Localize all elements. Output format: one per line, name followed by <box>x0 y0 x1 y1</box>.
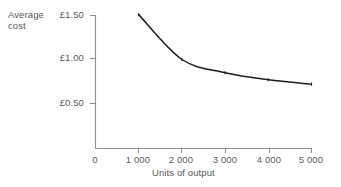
x-tick-label-1000: 1 000 <box>121 154 155 165</box>
x-tick-label-4000: 4 000 <box>252 154 286 165</box>
x-tick-label-0: 0 <box>78 154 112 165</box>
x-tick-label-5000: 5 000 <box>294 154 328 165</box>
x-tick-label-3000: 3 000 <box>208 154 242 165</box>
y-tick-label-0.50: £0.50 <box>38 97 84 108</box>
data-point-markers <box>139 13 312 86</box>
x-axis-label: Units of output <box>152 167 215 178</box>
y-axis-label-line-2: cost <box>8 20 60 31</box>
y-tick-label-1.50: £1.50 <box>38 9 84 20</box>
y-tick-label-1.00: £1.00 <box>38 52 84 63</box>
average-cost-chart: Average cost £1.50 £1.00 £0.50 0 1 000 2… <box>0 0 341 187</box>
x-tick-label-2000: 2 000 <box>164 154 198 165</box>
